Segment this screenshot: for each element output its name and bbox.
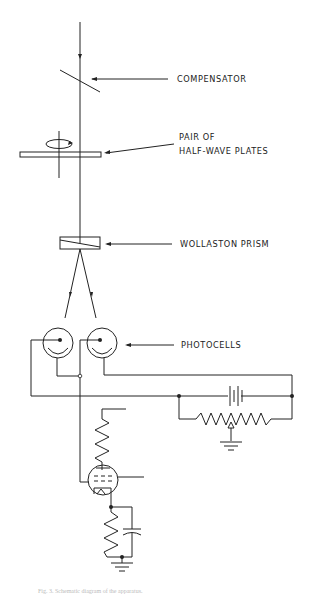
potentiometer	[179, 396, 292, 441]
half-wave-label-line1: PAIR OF	[179, 132, 215, 142]
photocell-left	[31, 328, 80, 376]
half-wave-plates	[20, 131, 101, 178]
photocells-arrow	[125, 343, 174, 347]
vacuum-tube	[80, 465, 144, 507]
half-wave-label-line2: HALF-WAVE PLATES	[179, 146, 268, 156]
photocells-label: PHOTOCELLS	[181, 340, 241, 350]
compensator-label: COMPENSATOR	[177, 74, 247, 84]
figure-caption: Fig. 3. Schematic diagram of the apparat…	[38, 588, 143, 594]
battery	[230, 386, 242, 406]
compensator-arrow	[91, 77, 168, 81]
photocell-right	[80, 328, 292, 482]
junction-node	[78, 374, 82, 378]
ground-pot	[220, 442, 242, 450]
schematic-diagram: COMPENSATOR PAIR OF HALF-WAVE PLATES WOL…	[0, 0, 309, 596]
plate-resistor	[95, 409, 126, 470]
half-wave-arrow	[104, 144, 174, 154]
bus-wire	[31, 340, 294, 398]
wollaston-arrow	[105, 242, 172, 246]
light-beam	[78, 22, 82, 243]
wollaston-label: WOLLASTON PRISM	[180, 239, 269, 249]
split-beams	[65, 249, 96, 318]
cathode-network	[104, 505, 141, 571]
